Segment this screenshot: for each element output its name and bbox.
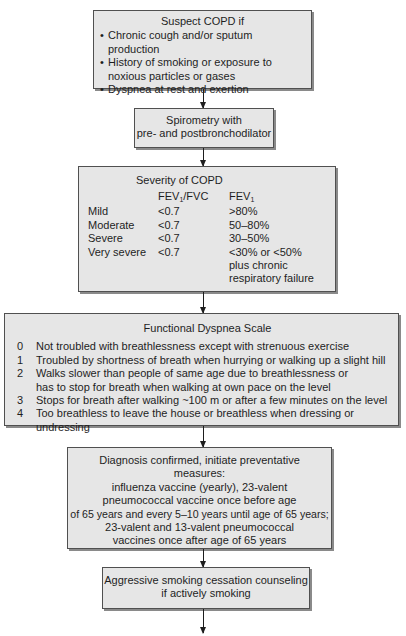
severity-fev1: <30% or <50% plus chronic respiratory fa… <box>229 246 334 286</box>
spirometry-line: Spirometry with <box>135 114 273 127</box>
dyspnea-description: Stops for breath after walking ~100 m or… <box>30 394 387 407</box>
header-fev1-fvc: FEV1/FVC <box>158 190 208 203</box>
dyspnea-item-0: 0 Not troubled with breathlessness excep… <box>5 340 398 353</box>
dyspnea-scale-box: Functional Dyspnea Scale 0 Not troubled … <box>4 313 399 426</box>
severity-ratio: <0.7 <box>158 219 180 232</box>
criteria-item: Chronic cough and/or sputum production <box>100 29 305 56</box>
diagnosis-line: of 65 years and every 5–10 years until a… <box>65 508 334 521</box>
arrow-down-icon <box>203 148 204 166</box>
dyspnea-item-3: 3 Stops for breath after walking ~100 m … <box>5 394 398 407</box>
severity-box: Severity of COPD FEV1/FVC FEV1 Mild <0.7… <box>78 166 336 292</box>
dyspnea-scale-title: Functional Dyspnea Scale <box>5 322 398 335</box>
dyspnea-description: Not troubled with breathlessness except … <box>30 340 349 353</box>
description-line: has to stop for breath when walking at o… <box>36 381 348 394</box>
suspect-copd-box: Suspect COPD if Chronic cough and/or spu… <box>93 10 312 89</box>
header-subscript: 1 <box>250 196 254 203</box>
arrow-down-icon <box>203 292 204 313</box>
arrow-down-icon <box>203 549 204 567</box>
dyspnea-item-2: 2 Walks slower than people of same age d… <box>5 367 398 394</box>
dyspnea-grade: 0 <box>5 340 30 353</box>
diagnosis-line: Diagnosis confirmed, initiate preventati… <box>68 454 331 467</box>
dyspnea-grade: 2 <box>5 367 30 394</box>
severity-ratio: <0.7 <box>158 205 180 218</box>
dyspnea-description: Troubled by shortness of breath when hur… <box>30 354 385 367</box>
dyspnea-grade: 1 <box>5 354 30 367</box>
dyspnea-grade: 4 <box>5 407 30 434</box>
spirometry-line: pre- and postbronchodilator <box>135 127 273 140</box>
diagnosis-line: influenza vaccine (yearly), 23-valent <box>68 481 331 494</box>
dyspnea-item-4: 4 Too breathless to leave the house or b… <box>5 407 398 434</box>
suspect-copd-title: Suspect COPD if <box>100 15 305 28</box>
diagnosis-line: 23-valent and 13-valent pneumococcal <box>68 521 331 534</box>
severity-fev1: 30–50% <box>229 232 334 245</box>
severity-title: Severity of COPD <box>136 174 223 187</box>
dyspnea-description: Too breathless to leave the house or bre… <box>30 407 398 434</box>
header-label: FEV <box>229 190 250 202</box>
arrow-down-icon <box>203 609 204 633</box>
smoking-line: if actively smoking <box>103 587 309 600</box>
severity-grade: Mild <box>88 205 108 218</box>
severity-grade: Severe <box>88 232 123 245</box>
criteria-item: History of smoking or exposure to noxiou… <box>100 56 305 83</box>
description-line: Walks slower than people of same age due… <box>36 367 348 380</box>
smoking-cessation-box: Aggressive smoking cessation counseling … <box>102 567 310 609</box>
severity-grade: Moderate <box>88 219 134 232</box>
dyspnea-item-1: 1 Troubled by shortness of breath when h… <box>5 354 398 367</box>
smoking-line: Aggressive smoking cessation counseling <box>103 574 309 587</box>
severity-grade: Very severe <box>88 246 146 259</box>
dyspnea-description: Walks slower than people of same age due… <box>30 367 348 394</box>
diagnosis-line: vaccines once after age of 65 years <box>68 534 331 547</box>
severity-ratio: <0.7 <box>158 232 180 245</box>
arrow-down-icon <box>203 426 204 447</box>
header-fev1: FEV1 <box>229 190 254 203</box>
severity-fev1: 50–80% <box>229 219 334 232</box>
dyspnea-grade: 3 <box>5 394 30 407</box>
suspect-criteria-list: Chronic cough and/or sputum production H… <box>100 29 305 96</box>
header-suffix: /FVC <box>183 190 208 202</box>
spirometry-box: Spirometry with pre- and postbronchodila… <box>134 108 274 148</box>
fev1-line: respiratory failure <box>229 272 334 285</box>
fev1-line: plus chronic <box>229 259 334 272</box>
severity-fev1: >80% <box>229 205 334 218</box>
diagnosis-confirmed-box: Diagnosis confirmed, initiate preventati… <box>67 447 332 549</box>
arrow-down-icon <box>203 89 204 108</box>
diagnosis-line: measures: <box>68 467 331 480</box>
header-label: FEV <box>158 190 179 202</box>
diagnosis-line: pneumococcal vaccine once before age <box>68 494 331 507</box>
severity-ratio: <0.7 <box>158 246 180 259</box>
fev1-line: <30% or <50% <box>229 246 334 259</box>
